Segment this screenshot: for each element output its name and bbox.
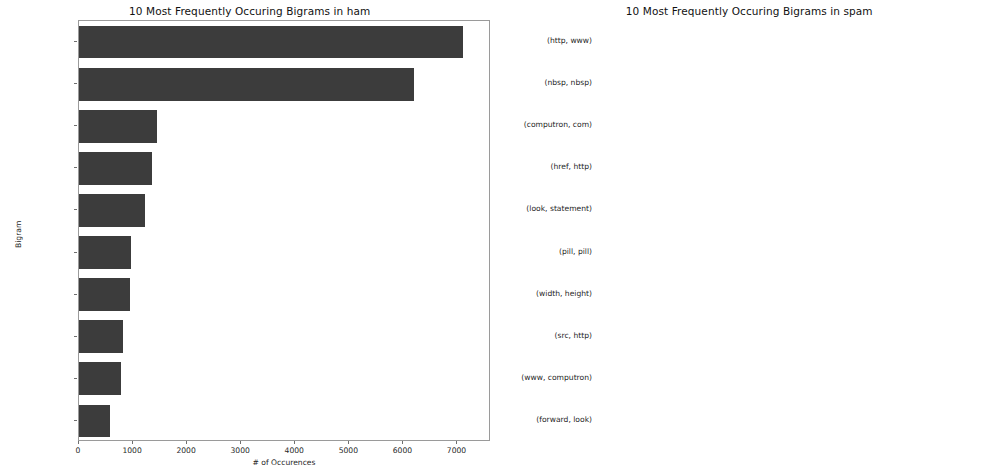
y-tick-mark [74,125,77,126]
y-tick-mark [74,378,77,379]
y-tick-label: (forward, look) [536,416,592,424]
bar [79,152,152,185]
bar [79,278,130,311]
x-tick-label: 1000 [122,447,141,455]
x-tick-mark [132,441,133,444]
y-tick-mark [74,294,77,295]
y-tick-label: (http, www) [547,37,592,45]
ham-bigrams-panel: 10 Most Frequently Occuring Bigrams in h… [0,0,500,471]
x-tick-mark [294,441,295,444]
ham-bars [79,21,489,440]
bar [79,194,145,227]
bar [79,320,123,353]
x-tick-label: 6000 [393,447,412,455]
spam-chart-title: 10 Most Frequently Occuring Bigrams in s… [500,5,999,17]
y-tick-mark [74,167,77,168]
ham-y-axis-title: Bigram [14,221,23,248]
bar [79,68,414,101]
y-tick-mark [74,41,77,42]
y-tick-label: (width, height) [536,290,592,298]
y-tick-mark [74,209,77,210]
spam-bigrams-panel: 10 Most Frequently Occuring Bigrams in s… [500,0,999,471]
y-tick-label: (www, computron) [521,374,592,382]
y-tick-mark [74,336,77,337]
x-tick-mark [348,441,349,444]
y-tick-label: (pill, pill) [559,248,592,256]
y-tick-label: (src, http) [555,332,592,340]
x-tick-label: 2000 [176,447,195,455]
x-tick-label: 3000 [231,447,250,455]
x-tick-mark [402,441,403,444]
x-tick-label: 4000 [285,447,304,455]
ham-x-axis-title: # of Occurences [78,458,490,467]
y-tick-label: (look, statement) [526,205,592,213]
bar [79,26,463,59]
y-tick-mark [74,420,77,421]
y-tick-label: (nbsp, nbsp) [544,79,592,87]
y-tick-mark [74,83,77,84]
ham-plot-area [78,20,490,441]
y-tick-label: (href, http) [551,163,592,171]
y-tick-label: (computron, com) [524,121,592,129]
x-tick-label: 7000 [447,447,466,455]
bar [79,405,110,438]
x-tick-mark [240,441,241,444]
x-tick-label: 5000 [339,447,358,455]
x-tick-mark [186,441,187,444]
y-tick-mark [74,252,77,253]
x-tick-label: 0 [76,447,81,455]
bigram-figure: 10 Most Frequently Occuring Bigrams in h… [0,0,999,471]
x-tick-mark [456,441,457,444]
ham-chart-title: 10 Most Frequently Occuring Bigrams in h… [0,5,500,17]
bar [79,110,157,143]
bar [79,236,131,269]
bar [79,362,121,395]
x-tick-mark [78,441,79,444]
